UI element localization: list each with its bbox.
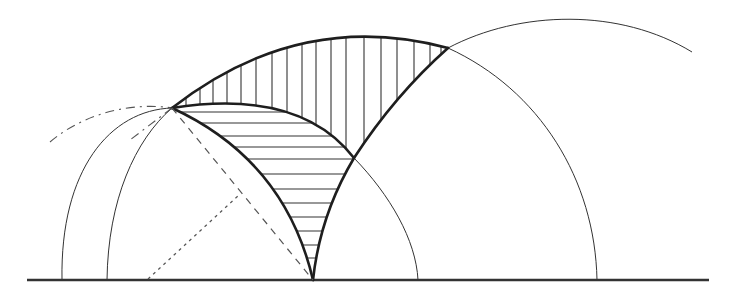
- arc-P-to-O: [172, 108, 313, 280]
- vertical-hatching: [186, 0, 441, 200]
- dotted-line-F-to-M: [148, 195, 239, 279]
- dashed-line-P-to-left: [130, 108, 172, 140]
- dashed-line-P-to-O: [172, 108, 313, 280]
- arc-right-mid: [448, 48, 597, 280]
- arc-far-right: [448, 19, 692, 52]
- arc-mid-left: [107, 108, 172, 280]
- arc-outer-left: [62, 108, 172, 280]
- arc-dashdot-left: [50, 106, 172, 142]
- arc-inner-continue: [354, 158, 418, 280]
- geometric-diagram: [0, 0, 733, 303]
